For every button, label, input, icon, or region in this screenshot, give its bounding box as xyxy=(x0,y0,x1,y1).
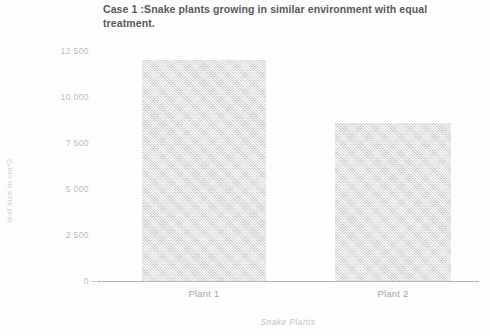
plot-area xyxy=(97,45,477,281)
y-tick-label: 0 xyxy=(31,276,89,286)
x-axis-title: Snake Plants xyxy=(97,317,479,327)
y-tick-label: 2 500 xyxy=(31,230,89,240)
y-axis-title: leaf size in cm^2 xyxy=(5,141,14,241)
x-category-label-plant-2: Plant 2 xyxy=(335,288,451,299)
zero-tick-mark xyxy=(91,281,96,282)
x-category-label-plant-1: Plant 1 xyxy=(142,288,266,299)
y-tick-label: 5 000 xyxy=(31,184,89,194)
y-tick-label: 12 500 xyxy=(31,46,89,56)
x-axis-line xyxy=(97,281,479,282)
y-tick-label: 7 500 xyxy=(31,138,89,148)
bar-plant-2 xyxy=(335,123,451,281)
y-axis-tick-labels: 12 500 10 000 7 500 5 000 2 500 0 xyxy=(27,0,89,336)
bar-chart-figure: Case 1 :Snake plants growing in similar … xyxy=(0,0,490,336)
y-tick-label: 10 000 xyxy=(31,92,89,102)
chart-title: Case 1 :Snake plants growing in similar … xyxy=(103,2,473,30)
bar-plant-1 xyxy=(142,60,266,281)
